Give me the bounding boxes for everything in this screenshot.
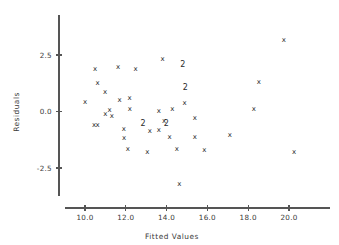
data-point-overlap: 2 <box>164 119 169 128</box>
x-tick-label: 20.0 <box>280 213 297 222</box>
x-tick-label: 14.0 <box>158 213 175 222</box>
data-point: x <box>292 148 296 156</box>
y-tick-label: -2.5 <box>37 164 52 173</box>
data-point: x <box>134 65 138 73</box>
data-point: x <box>202 146 206 154</box>
data-point: x <box>228 131 232 139</box>
x-tick-label: 18.0 <box>240 213 257 222</box>
data-point: x <box>148 127 152 135</box>
data-point: x <box>122 134 126 142</box>
x-axis-title: Fitted Values <box>145 232 199 241</box>
data-point: x <box>122 125 126 133</box>
data-points-layer: xxxxxxxxxxxxxxxxx2xxxxxx2xxxx2x2xxxxxxxx <box>83 36 296 188</box>
data-point-overlap: 2 <box>180 60 185 69</box>
data-point: x <box>193 114 197 122</box>
y-axis: 2.50.0-2.5 <box>37 15 62 196</box>
data-point: x <box>110 112 114 120</box>
data-point-overlap: 2 <box>183 83 188 92</box>
residual-scatter-plot: 2.50.0-2.5 10.012.014.016.018.020.0 Fitt… <box>0 0 339 245</box>
data-point: x <box>93 65 97 73</box>
data-point: x <box>116 63 120 71</box>
data-point-overlap: 2 <box>141 119 146 128</box>
data-point: x <box>252 105 256 113</box>
y-axis-ticks: 2.50.0-2.5 <box>37 51 62 173</box>
x-tick-label: 12.0 <box>117 213 134 222</box>
data-point: x <box>118 96 122 104</box>
data-point: x <box>175 145 179 153</box>
data-point: x <box>168 133 172 141</box>
data-point: x <box>257 78 261 86</box>
data-point: x <box>103 88 107 96</box>
data-point: x <box>160 55 164 63</box>
data-point: x <box>170 105 174 113</box>
chart-canvas: 2.50.0-2.5 10.012.014.016.018.020.0 Fitt… <box>0 0 339 245</box>
data-point: x <box>126 145 130 153</box>
x-tick-label: 10.0 <box>76 213 93 222</box>
data-point: x <box>96 121 100 129</box>
y-axis-title: Residuals <box>12 92 21 132</box>
data-point: x <box>83 98 87 106</box>
data-point: x <box>182 99 186 107</box>
data-point: x <box>145 148 149 156</box>
x-tick-label: 16.0 <box>199 213 216 222</box>
y-tick-label: 2.5 <box>40 51 52 60</box>
data-point: x <box>157 107 161 115</box>
data-point: x <box>157 126 161 134</box>
x-axis: 10.012.014.016.018.020.0 <box>65 205 330 222</box>
data-point: x <box>177 180 181 188</box>
data-point: x <box>128 105 132 113</box>
data-point: x <box>96 79 100 87</box>
data-point: x <box>282 36 286 44</box>
data-point: x <box>193 133 197 141</box>
y-tick-label: 0.0 <box>40 107 52 116</box>
data-point: x <box>127 94 131 102</box>
